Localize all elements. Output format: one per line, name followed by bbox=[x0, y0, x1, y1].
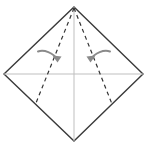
origami-diagram-canvas bbox=[0, 0, 147, 150]
origami-diagram-svg bbox=[0, 0, 147, 150]
